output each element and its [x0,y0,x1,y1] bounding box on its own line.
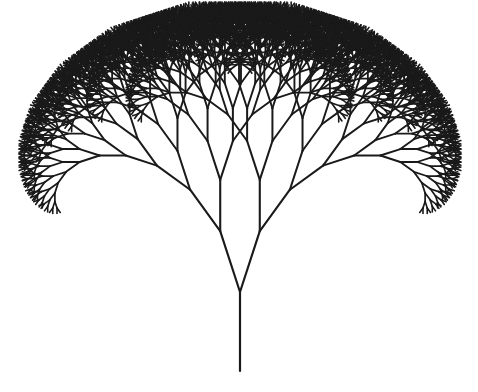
fractal-tree-figure: Fractal tree [0,0,478,392]
fractal-tree [0,0,478,392]
